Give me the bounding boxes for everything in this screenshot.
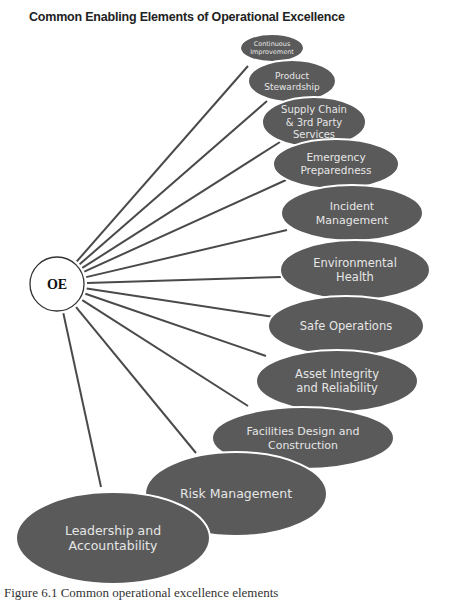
connector-line (87, 289, 274, 317)
element-label: Construction (268, 439, 338, 452)
oe-center-node[interactable]: OE (30, 257, 84, 311)
element-node[interactable]: Leadership andAccountability (16, 492, 210, 584)
element-label: and Reliability (296, 381, 378, 395)
element-node[interactable]: ContinuousImprovement (240, 34, 304, 62)
element-node[interactable]: EnvironmentalHealth (280, 240, 430, 300)
connector-line (76, 307, 196, 453)
element-label: Safe Operations (300, 319, 392, 333)
element-label: Incident (330, 200, 375, 213)
connector-line (84, 180, 286, 272)
element-label: Accountability (69, 538, 158, 553)
figure-caption: Figure 6.1 Common operational excellence… (4, 585, 278, 601)
element-node[interactable]: EmergencyPreparedness (273, 139, 399, 189)
element-node[interactable]: Safe Operations (268, 296, 424, 356)
element-node[interactable]: ProductStewardship (248, 60, 336, 102)
element-label: Environmental (313, 256, 397, 270)
element-label: Facilities Design and (247, 425, 360, 438)
element-label: Improvement (250, 48, 294, 56)
element-label: Stewardship (264, 82, 320, 92)
connector-line (87, 277, 281, 283)
connector-line (77, 66, 248, 261)
element-label: Preparedness (300, 164, 371, 176)
element-label: Management (316, 214, 389, 227)
connector-line (82, 300, 248, 406)
element-label: Asset Integrity (295, 367, 379, 381)
element-label: Product (275, 71, 310, 81)
connector-line (85, 294, 266, 356)
element-label: Continuous (254, 40, 291, 48)
element-label: & 3rd Party (286, 117, 343, 128)
element-node[interactable]: Asset Integrityand Reliability (256, 350, 418, 412)
element-label: Risk Management (180, 486, 292, 501)
connector-line (80, 101, 267, 264)
element-label: Health (336, 270, 374, 284)
element-label: Supply Chain (281, 104, 347, 115)
element-label: Emergency (306, 151, 365, 163)
element-node[interactable]: IncidentManagement (281, 185, 423, 241)
connector-line (63, 313, 101, 487)
connector-line (86, 230, 287, 277)
connector-line (82, 142, 280, 268)
oe-label: OE (47, 277, 67, 292)
element-label: Leadership and (65, 523, 161, 538)
